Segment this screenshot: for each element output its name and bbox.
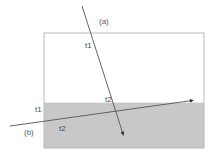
figure-canvas: (a) (b) t1 t2 t1 t2: [0, 0, 213, 156]
segment-label-t1-outside: t1: [35, 105, 42, 114]
segment-label-t1-upper: t1: [85, 41, 92, 50]
ray-b-label: (b): [24, 128, 34, 137]
refraction-figure: (a) (b) t1 t2 t1 t2: [0, 0, 213, 156]
segment-label-t2-lower: t2: [59, 124, 66, 133]
segment-label-t2-interface: t2: [105, 95, 112, 104]
ray-a-label: (a): [99, 17, 109, 26]
